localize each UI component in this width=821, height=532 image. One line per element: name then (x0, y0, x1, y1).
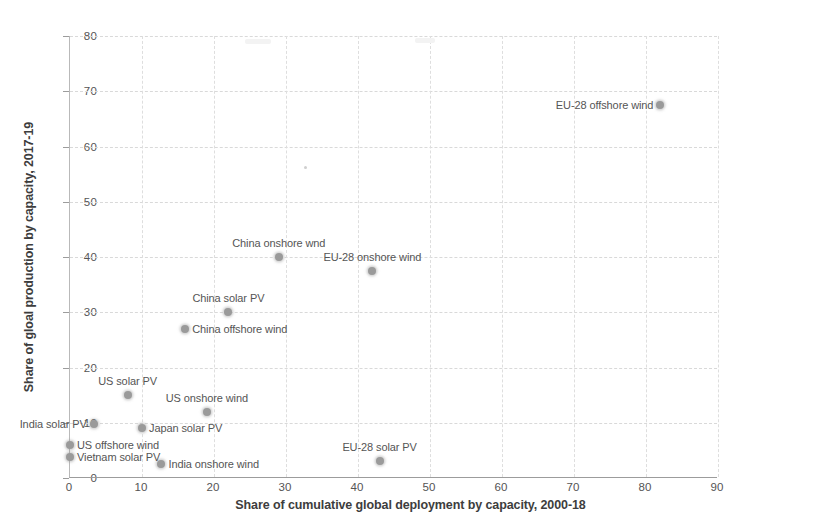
data-point-marker[interactable] (66, 441, 74, 449)
data-point-label: EU-28 solar PV (342, 441, 416, 453)
gridline-vertical (214, 36, 215, 477)
gridline-vertical (286, 36, 287, 477)
y-axis-title: Share of gloal production by capacity, 2… (22, 42, 36, 472)
gridline-horizontal (70, 91, 717, 92)
scan-smudge (415, 38, 435, 43)
x-axis-tick-label: 70 (553, 481, 593, 493)
scan-smudge (245, 39, 271, 44)
data-point-label: US onshore wind (166, 392, 248, 404)
x-axis-tick-label: 0 (49, 481, 89, 493)
data-point-label: Vietnam solar PV (77, 451, 160, 463)
x-axis-title: Share of cumulative global deployment by… (0, 498, 821, 512)
x-axis-tick-label: 30 (265, 481, 305, 493)
x-axis-tick-label: 40 (337, 481, 377, 493)
data-point-label: India onshore wind (168, 458, 259, 470)
gridline-horizontal (70, 147, 717, 148)
data-point-marker[interactable] (181, 325, 189, 333)
x-axis-tick-label: 50 (409, 481, 449, 493)
data-point-marker[interactable] (376, 457, 384, 465)
data-point-marker[interactable] (138, 424, 146, 432)
plot-area: EU-28 offshore windChina onshore wndEU-2… (69, 36, 717, 478)
data-point-label: US offshore wind (77, 439, 159, 451)
scatter-chart: Share of gloal production by capacity, 2… (0, 0, 821, 532)
data-point-marker[interactable] (90, 420, 98, 428)
data-point-label: Japan solar PV (149, 422, 222, 434)
data-point-marker[interactable] (124, 391, 132, 399)
gridline-horizontal (70, 312, 717, 313)
data-point-marker[interactable] (203, 408, 211, 416)
data-point-label: US solar PV (98, 375, 157, 387)
gridline-vertical (142, 36, 143, 477)
data-point-label: China solar PV (192, 292, 264, 304)
x-axis-tick-label: 20 (193, 481, 233, 493)
gridline-horizontal (70, 368, 717, 369)
data-point-label: China offshore wind (192, 323, 287, 335)
y-axis-tick-mark (63, 478, 69, 479)
data-point-marker[interactable] (656, 101, 664, 109)
gridline-horizontal (70, 202, 717, 203)
x-axis-tick-label: 60 (481, 481, 521, 493)
data-point-marker[interactable] (224, 308, 232, 316)
gridline-horizontal (70, 36, 717, 37)
x-axis-tick-label: 80 (625, 481, 665, 493)
data-point-label: EU-28 onshore wind (323, 251, 421, 263)
data-point-label: India solar PV (20, 418, 87, 430)
data-point-label: China onshore wnd (232, 237, 325, 249)
scan-speck (304, 166, 307, 169)
data-point-marker[interactable] (66, 453, 74, 461)
data-point-marker[interactable] (368, 267, 376, 275)
x-axis-tick-label: 10 (121, 481, 161, 493)
data-point-marker[interactable] (275, 253, 283, 261)
gridline-vertical (718, 36, 719, 477)
data-point-label: EU-28 offshore wind (556, 99, 654, 111)
x-axis-tick-label: 90 (697, 481, 737, 493)
gridline-vertical (430, 36, 431, 477)
gridline-vertical (502, 36, 503, 477)
